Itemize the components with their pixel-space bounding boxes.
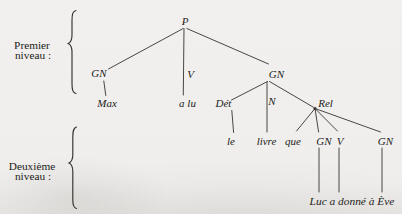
node-n: N (267, 95, 276, 107)
terminal-max: Max (96, 97, 117, 109)
edge-p-gn-object (187, 29, 269, 65)
terminal-que: que (285, 135, 301, 147)
rel-junction-dot (314, 107, 317, 110)
edge-gn-object-det (232, 82, 268, 101)
edge-p-v-a-lu (183, 29, 184, 96)
node-v-rel: V (337, 135, 345, 147)
syntax-tree-figure: Premier niveau : Deuxième niveau : (0, 0, 402, 214)
edge-gn-subject-max (104, 81, 106, 96)
premier-brace (68, 11, 76, 94)
terminal-livre: livre (257, 135, 277, 147)
terminal-phrase: Luc a donné à Ève (309, 195, 395, 207)
terminal-le: le (227, 135, 235, 147)
level-braces (68, 11, 76, 209)
node-det: Dét (215, 97, 233, 109)
edge-det-le (232, 111, 234, 133)
tree-edges (104, 29, 382, 193)
node-gn-subject: GN (91, 67, 107, 79)
terminal-a-lu: a lu (179, 97, 196, 109)
node-v-level1: V (187, 68, 195, 80)
edge-rel-que (297, 109, 316, 132)
node-gn-rel-subject: GN (316, 135, 332, 147)
node-rel: Rel (317, 97, 333, 109)
level-labels: Premier niveau : Deuxième niveau : (9, 39, 55, 182)
deuxieme-label-line2: niveau : (15, 170, 51, 182)
edge-rel-gn-object (315, 109, 381, 133)
node-p: P (181, 15, 189, 27)
syntax-tree-svg: Premier niveau : Deuxième niveau : (0, 0, 402, 214)
node-gn-rel-object: GN (378, 135, 394, 147)
edge-gn-object-rel (270, 82, 314, 108)
edge-p-gn-subject (109, 29, 184, 70)
premier-label-line2: niveau : (15, 49, 51, 61)
tree-nodes: P GN V GN Max a lu Dét N Rel le livre qu… (91, 15, 394, 207)
node-gn-object: GN (269, 68, 285, 80)
deuxieme-brace (69, 127, 77, 209)
